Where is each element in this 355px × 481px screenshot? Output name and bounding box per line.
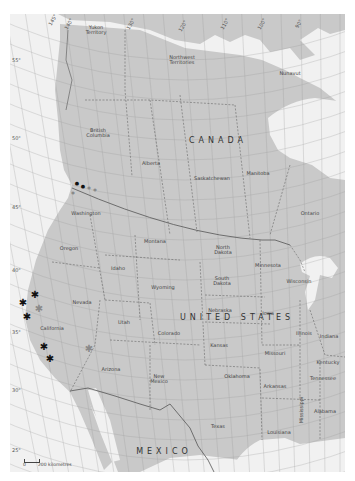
star-marker-icon: ✱ [23, 312, 31, 322]
star-marker-icon: ✱ [46, 354, 54, 364]
region-label: Montana [144, 239, 166, 244]
latitude-label: 25° [12, 448, 21, 453]
region-label: Yukon Territory [86, 25, 107, 35]
region-label: Colorado [158, 331, 180, 336]
region-label: Alberta [142, 161, 160, 166]
region-label: Nunavut [279, 71, 300, 76]
latitude-label: 40° [12, 268, 21, 273]
dot-marker-icon: ● [93, 188, 97, 192]
region-label: California [40, 326, 64, 331]
region-label: Kansas [210, 343, 228, 348]
latitude-label: 35° [12, 330, 21, 335]
region-label: Nebraska [208, 308, 232, 313]
star-marker-icon: ✱ [40, 342, 48, 352]
region-label: Iowa [262, 311, 274, 316]
region-label: Louisiana [267, 430, 291, 435]
scale-end-label: 200 kilometres [38, 462, 72, 467]
dot-marker-icon: ● [81, 184, 85, 189]
dot-marker-icon: ● [75, 181, 79, 186]
region-label: Ontario [301, 211, 320, 216]
region-label: Washington [71, 211, 100, 216]
region-label: Wisconsin [287, 279, 312, 284]
star-marker-icon: ✱ [85, 344, 93, 354]
dot-marker-icon: ● [71, 191, 75, 195]
region-label: Nevada [72, 300, 91, 305]
latitude-label: 55° [12, 58, 21, 63]
region-label: Kentucky [317, 360, 340, 365]
dot-marker-icon: ● [87, 186, 91, 190]
region-label: Minnesota [255, 263, 281, 268]
region-label: Oregon [60, 246, 78, 251]
region-label: Northwest Territories [169, 55, 195, 65]
country-label: CANADA [189, 137, 247, 145]
region-label: Mississippi [299, 397, 304, 424]
latitude-label: 30° [12, 388, 21, 393]
region-label: Utah [118, 320, 130, 325]
region-label: Alabama [314, 409, 336, 414]
region-label: Illinois [296, 331, 312, 336]
country-label: UNITED STATES [180, 314, 294, 322]
region-label: Manitoba [246, 171, 269, 176]
region-label: Idaho [111, 266, 125, 271]
region-label: Arkansas [264, 384, 287, 389]
region-label: Arizona [102, 367, 121, 372]
map-canvas [10, 14, 345, 472]
scale-start-label: 0 [23, 462, 26, 467]
star-marker-icon: ✱ [35, 304, 43, 314]
latitude-label: 50° [12, 136, 21, 141]
region-label: North Dakota [214, 245, 232, 255]
region-label: Oklahoma [224, 374, 249, 379]
star-marker-icon: ✱ [19, 298, 27, 308]
region-label: Tennessee [310, 376, 336, 381]
region-label: Wyoming [151, 285, 174, 290]
star-marker-icon: ✱ [31, 290, 39, 300]
region-label: Missouri [265, 351, 286, 356]
region-label: Indiana [320, 334, 339, 339]
latitude-label: 45° [12, 205, 21, 210]
region-label: South Dakota [213, 276, 231, 286]
region-label: Saskatchewan [194, 176, 230, 181]
country-label: MEXICO [136, 448, 192, 456]
region-label: Texas [211, 424, 225, 429]
region-label: New Mexico [150, 374, 167, 384]
region-label: British Columbia [86, 128, 110, 138]
